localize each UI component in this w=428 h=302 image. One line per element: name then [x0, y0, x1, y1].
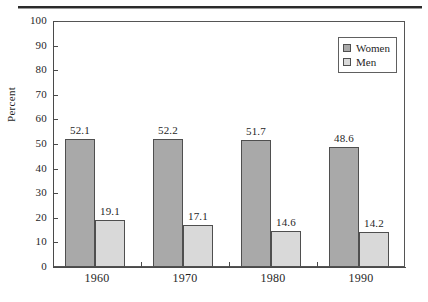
legend-swatch-women [343, 44, 351, 52]
y-tick-label-40: 40 [17, 163, 47, 174]
bar-women-1980 [241, 140, 271, 267]
y-tick-90 [53, 46, 58, 47]
bar-value-label-women-1980: 51.7 [234, 125, 278, 137]
y-tick-100 [53, 21, 58, 22]
y-tick-label-0: 0 [17, 261, 47, 272]
bar-value-label-men-1980: 14.6 [264, 216, 308, 228]
bar-men-1980 [271, 231, 301, 267]
y-tick-label-20: 20 [17, 212, 47, 223]
legend-label-women: Women [356, 42, 390, 54]
bar-men-1990 [359, 232, 389, 267]
bar-value-label-women-1960: 52.1 [58, 124, 102, 136]
bar-value-label-women-1990: 48.6 [322, 132, 366, 144]
y-axis-title: Percent [6, 87, 17, 122]
y-tick-50 [53, 144, 58, 145]
x-group-label-1990: 1990 [321, 272, 401, 285]
bar-chart-figure: Percent 0102030405060708090100 52.119.15… [0, 0, 428, 302]
y-tick-label-80: 80 [17, 64, 47, 75]
y-tick-0 [53, 267, 58, 268]
legend-entry-women: Women [343, 41, 390, 55]
x-group-label-1980: 1980 [233, 272, 313, 285]
y-tick-30 [53, 193, 58, 194]
y-tick-10 [53, 242, 58, 243]
bar-women-1970 [153, 139, 183, 267]
bar-men-1970 [183, 225, 213, 267]
y-tick-60 [53, 119, 58, 120]
x-tick-3 [317, 262, 318, 268]
y-tick-label-70: 70 [17, 89, 47, 100]
y-tick-label-90: 90 [17, 40, 47, 51]
chart-legend: Women Men [338, 37, 397, 73]
legend-entry-men: Men [343, 55, 390, 69]
y-tick-80 [53, 70, 58, 71]
bar-value-label-men-1990: 14.2 [352, 217, 396, 229]
x-tick-1 [141, 262, 142, 268]
legend-swatch-men [343, 58, 351, 66]
legend-label-men: Men [356, 56, 376, 68]
y-tick-20 [53, 218, 58, 219]
y-tick-label-100: 100 [17, 15, 47, 26]
x-tick-2 [229, 262, 230, 268]
bar-value-label-men-1960: 19.1 [88, 205, 132, 217]
bar-men-1960 [95, 220, 125, 267]
y-tick-label-60: 60 [17, 113, 47, 124]
bar-value-label-women-1970: 52.2 [146, 124, 190, 136]
x-group-label-1970: 1970 [145, 272, 225, 285]
y-tick-label-30: 30 [17, 187, 47, 198]
y-tick-label-50: 50 [17, 138, 47, 149]
bar-value-label-men-1970: 17.1 [176, 210, 220, 222]
y-tick-label-10: 10 [17, 236, 47, 247]
x-group-label-1960: 1960 [57, 272, 137, 285]
bar-women-1990 [329, 147, 359, 267]
y-tick-70 [53, 95, 58, 96]
y-tick-40 [53, 169, 58, 170]
bar-women-1960 [65, 139, 95, 267]
